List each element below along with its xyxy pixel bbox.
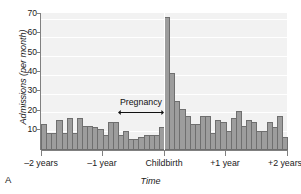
x-tick-mark: [102, 151, 103, 156]
x-tick-mark: [164, 151, 165, 156]
bar-series: [41, 13, 287, 150]
pregnancy-annotation-label: Pregnancy: [120, 98, 162, 107]
y-tick-label: 70: [19, 9, 37, 18]
x-tick-label: +1 year: [210, 158, 240, 168]
x-tick-label: Childbirth: [145, 158, 182, 168]
x-tick-label: –1 year: [87, 158, 116, 168]
y-tick-label: 40: [19, 67, 37, 76]
y-axis-line: [40, 13, 41, 150]
x-tick-mark: [41, 151, 42, 156]
x-tick-mark: [225, 151, 226, 156]
pregnancy-span-arrow-icon: [118, 109, 164, 116]
x-tick-mark: [287, 151, 288, 156]
y-tick-label: 10: [19, 125, 37, 134]
y-tick-label: 60: [19, 28, 37, 37]
figure-panel-a: Admissions (per month) 70 60 50 40 30 20…: [0, 0, 301, 194]
y-tick-label: 20: [19, 106, 37, 115]
x-axis-title: Time: [0, 176, 301, 186]
x-tick-label: +2 years: [268, 158, 301, 168]
y-tick-label: 30: [19, 86, 37, 95]
panel-letter: A: [5, 174, 11, 185]
bar: [282, 137, 288, 150]
y-tick-label: 50: [19, 48, 37, 57]
plot-area: [41, 13, 287, 150]
x-tick-label: –2 years: [24, 158, 58, 168]
